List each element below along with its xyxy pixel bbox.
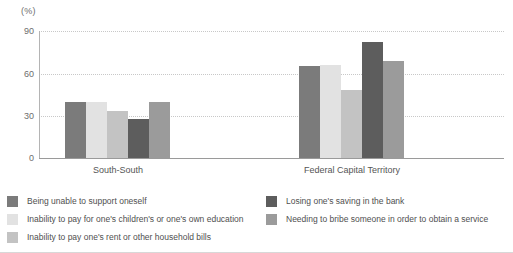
legend-item-2[interactable]: Inability to pay one's rent or other hou…: [7, 229, 244, 245]
bar-0-2: [107, 111, 128, 158]
bar-1-1: [320, 65, 341, 158]
legend-item-4[interactable]: Needing to bribe someone in order to obt…: [266, 211, 488, 227]
bar-1-0: [299, 66, 320, 158]
legend-column-left: Being unable to support oneself Inabilit…: [7, 193, 244, 247]
legend-label-0: Being unable to support oneself: [27, 196, 147, 207]
legend-item-0[interactable]: Being unable to support oneself: [7, 193, 244, 209]
bar-1-3: [362, 42, 383, 158]
legend-label-1: Inability to pay for one's children's or…: [27, 214, 244, 225]
bar-1-4: [383, 61, 404, 158]
bars-layer: [0, 0, 513, 158]
bar-1-2: [341, 90, 362, 158]
x-axis-line: [39, 158, 504, 159]
plot-area: (%) 90 60 30 0 South-South Federal Capit…: [0, 0, 513, 190]
bar-0-0: [65, 102, 86, 158]
bar-chart: (%) 90 60 30 0 South-South Federal Capit…: [0, 0, 513, 253]
legend-swatch-icon-4: [266, 214, 277, 225]
legend-label-4: Needing to bribe someone in order to obt…: [286, 214, 488, 225]
legend-item-1[interactable]: Inability to pay for one's children's or…: [7, 211, 244, 227]
bar-0-1: [86, 102, 107, 158]
legend-swatch-icon-0: [7, 196, 18, 207]
legend-swatch-icon-1: [7, 214, 18, 225]
x-axis-group-label-federal-capital-territory: Federal Capital Territory: [304, 165, 400, 175]
legend-label-3: Losing one's saving in the bank: [286, 196, 404, 207]
legend-swatch-icon-3: [266, 196, 277, 207]
legend-swatch-icon-2: [7, 232, 18, 243]
x-axis-group-label-south-south: South-South: [93, 165, 143, 175]
legend-label-2: Inability to pay one's rent or other hou…: [27, 232, 211, 243]
chart-legend: Being unable to support oneself Inabilit…: [0, 193, 513, 253]
legend-column-right: Losing one's saving in the bank Needing …: [266, 193, 488, 229]
bar-0-4: [149, 102, 170, 158]
bar-0-3: [128, 119, 149, 159]
legend-item-3[interactable]: Losing one's saving in the bank: [266, 193, 488, 209]
